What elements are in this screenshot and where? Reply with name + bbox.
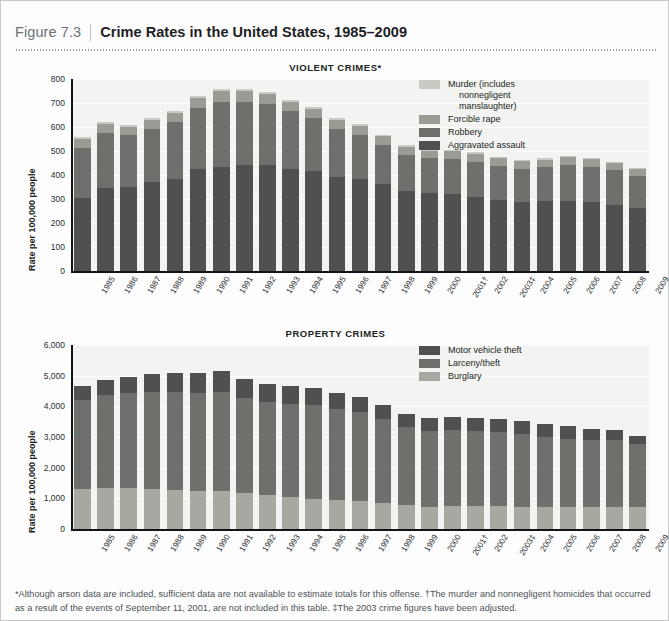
- bar-segment: [629, 436, 646, 444]
- bar-segment: [490, 158, 507, 166]
- bar-segment: [583, 158, 600, 159]
- bar-segment: [490, 432, 507, 506]
- x-axis-tick-label: 1997: [377, 275, 394, 295]
- bar-segment: [190, 373, 207, 393]
- bar-segment: [144, 129, 161, 182]
- bar-segment: [97, 122, 114, 124]
- x-axis-tick-label: 2000: [446, 533, 463, 553]
- x-axis-tick-label: 2002: [492, 533, 509, 553]
- x-axis-tick-label: 1987: [145, 275, 162, 295]
- bar-segment: [560, 201, 577, 271]
- bar-segment: [213, 491, 230, 529]
- bar: [305, 107, 322, 271]
- bar-segment: [375, 419, 392, 503]
- legend-label: Forcible rape: [448, 114, 501, 125]
- bar-segment: [606, 163, 623, 170]
- y-axis-tick-label: 700: [15, 98, 65, 108]
- bar-segment: [190, 491, 207, 529]
- bar-segment: [467, 506, 484, 529]
- bar: [375, 135, 392, 271]
- bar-segment: [398, 191, 415, 271]
- x-axis-tick-label: 2006: [585, 275, 602, 295]
- bar: [583, 429, 600, 529]
- x-axis-tick-label: 1987: [145, 533, 162, 553]
- bar-segment: [329, 177, 346, 271]
- x-axis-tick-label: 1988: [168, 275, 185, 295]
- bar: [467, 418, 484, 529]
- bar-segment: [74, 139, 91, 148]
- x-axis-tick-label: 2003‡: [517, 533, 537, 557]
- y-axis-tick-label: 5,000: [15, 371, 65, 381]
- x-axis-tick-label: 1996: [353, 533, 370, 553]
- x-axis-tick-label: 1997: [377, 533, 394, 553]
- bar-segment: [329, 393, 346, 409]
- bar-segment: [490, 200, 507, 271]
- bar: [213, 89, 230, 271]
- bar: [329, 393, 346, 529]
- legend-label: Burglary: [448, 371, 482, 382]
- bar: [167, 373, 184, 529]
- bar: [490, 157, 507, 271]
- bar: [329, 118, 346, 271]
- x-axis-tick-label: 2003‡: [517, 275, 537, 299]
- y-axis-tick-label: 2,000: [15, 463, 65, 473]
- bar-segment: [120, 127, 137, 136]
- x-axis-tick-label: 2005: [562, 533, 579, 553]
- bar-segment: [329, 118, 346, 120]
- bar-segment: [74, 386, 91, 400]
- bar-segment: [305, 171, 322, 271]
- bar-segment: [329, 500, 346, 529]
- bar-segment: [144, 489, 161, 529]
- bar-segment: [305, 118, 322, 171]
- violent-crimes-title: VIOLENT CRIMES*: [15, 62, 656, 73]
- x-axis-tick-label: 2008: [631, 275, 648, 295]
- bar-segment: [444, 194, 461, 271]
- bar: [629, 436, 646, 529]
- property-y-axis-title: Rate per 100,000 people: [27, 430, 37, 533]
- bar-segment: [352, 397, 369, 413]
- bar-segment: [629, 444, 646, 507]
- bar-segment: [352, 135, 369, 180]
- x-axis-tick-label: 1991: [238, 533, 255, 553]
- y-axis-line: [71, 345, 73, 529]
- bar: [74, 386, 91, 529]
- bar-segment: [560, 157, 577, 164]
- bar: [305, 388, 322, 529]
- bar-segment: [259, 92, 276, 94]
- bar-segment: [537, 201, 554, 271]
- bar-segment: [213, 91, 230, 101]
- legend-swatch: [419, 372, 440, 381]
- y-axis-tick-label: 1,000: [15, 493, 65, 503]
- bar-segment: [398, 145, 415, 146]
- legend-item: Larceny/theft: [419, 358, 649, 369]
- bar: [514, 160, 531, 271]
- bar-segment: [629, 507, 646, 529]
- bar-segment: [606, 440, 623, 506]
- bar-segment: [190, 98, 207, 108]
- bar-segment: [629, 208, 646, 271]
- bar: [537, 424, 554, 529]
- bar: [213, 371, 230, 529]
- x-axis-tick-label: 1994: [307, 275, 324, 295]
- bar-segment: [282, 111, 299, 168]
- bar: [352, 397, 369, 529]
- bar-segment: [421, 193, 438, 271]
- y-axis-tick-label: 0: [15, 266, 65, 276]
- x-axis-tick-label: 1999: [423, 275, 440, 295]
- bar-segment: [537, 158, 554, 159]
- x-axis-tick-label: 2005: [562, 275, 579, 295]
- bar-segment: [583, 507, 600, 529]
- bar-segment: [259, 165, 276, 271]
- header-dotted-rule: [15, 49, 656, 51]
- bar-segment: [467, 154, 484, 162]
- bar-segment: [74, 400, 91, 489]
- bar-segment: [537, 160, 554, 168]
- bar-segment: [352, 501, 369, 529]
- x-axis-tick-label: 1990: [215, 275, 232, 295]
- y-axis-tick-label: 4,000: [15, 401, 65, 411]
- x-axis-tick-label: 1988: [168, 533, 185, 553]
- bar: [421, 418, 438, 529]
- bar-segment: [120, 187, 137, 271]
- bar-segment: [606, 507, 623, 529]
- y-axis-tick-label: 600: [15, 122, 65, 132]
